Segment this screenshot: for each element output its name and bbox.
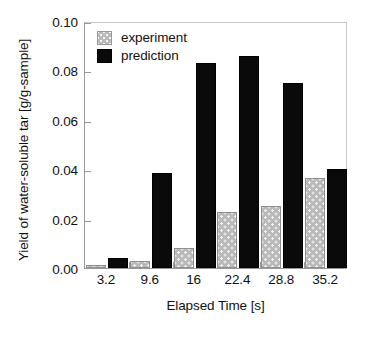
chart-legend: experimentprediction (97, 29, 187, 64)
y-axis-title: Yield of water-soluble tar [g/g-sample] (12, 0, 34, 300)
bar-group (260, 23, 304, 268)
bar-prediction (327, 169, 347, 268)
x-axis-title: Elapsed Time [s] (84, 298, 347, 313)
bar-prediction (108, 258, 128, 268)
bar-group (304, 23, 348, 268)
x-tick-label: 3.2 (97, 272, 115, 287)
bar-chart-figure: Yield of water-soluble tar [g/g-sample] … (0, 0, 375, 337)
x-tick-label: 28.8 (268, 272, 294, 287)
x-tick-label: 35.2 (312, 272, 338, 287)
y-tick-label: 0.10 (52, 15, 78, 30)
bar-prediction (239, 56, 259, 268)
bar-prediction (152, 173, 172, 268)
bar-experiment (217, 212, 237, 268)
plot-area: experimentprediction (84, 22, 347, 269)
bar-prediction (283, 83, 303, 268)
bar-experiment (130, 261, 150, 268)
bar-experiment (261, 206, 281, 268)
y-tick-label: 0.08 (52, 64, 78, 79)
x-axis-tick-labels: 3.29.61622.428.835.2 (84, 272, 347, 292)
legend-label: experiment (121, 30, 187, 45)
bar-experiment (86, 265, 106, 268)
x-tick-label: 22.4 (224, 272, 250, 287)
y-tick-label: 0.00 (52, 262, 78, 277)
legend-swatch-experiment (97, 31, 112, 45)
y-tick-label: 0.06 (52, 113, 78, 128)
y-tick-label: 0.04 (52, 163, 78, 178)
y-axis-tick-labels: 0.000.020.040.060.080.10 (36, 22, 82, 269)
bar-group (217, 23, 261, 268)
legend-label: prediction (121, 48, 179, 63)
x-tick-label: 9.6 (141, 272, 159, 287)
legend-item-experiment: experiment (97, 29, 187, 46)
y-tick-label: 0.02 (52, 212, 78, 227)
legend-item-prediction: prediction (97, 47, 187, 64)
x-tick-label: 16 (186, 272, 201, 287)
bar-experiment (174, 248, 194, 268)
bar-experiment (305, 178, 325, 268)
bar-prediction (196, 63, 216, 269)
legend-swatch-prediction (97, 49, 112, 63)
